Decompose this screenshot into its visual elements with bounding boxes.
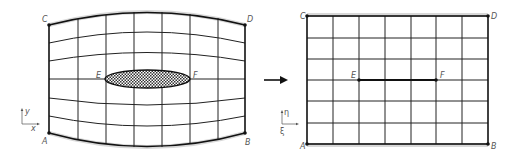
physical-domain: C D A B E F y x <box>21 12 253 147</box>
label-C: C <box>300 12 306 21</box>
axis-label-x: x <box>30 124 36 133</box>
corner-C-dot <box>305 14 309 18</box>
corner-B-dot <box>243 131 247 135</box>
xi-eta-axes-icon: η ξ <box>280 108 299 136</box>
label-E: E <box>351 71 357 80</box>
elliptic-obstacle <box>105 70 190 88</box>
label-A: A <box>299 142 305 151</box>
right-arrow-icon <box>264 76 288 84</box>
label-F: F <box>440 71 445 80</box>
label-D: D <box>247 15 253 24</box>
label-A: A <box>41 137 47 146</box>
label-B: B <box>491 142 497 151</box>
axis-label-xi: ξ <box>280 127 284 136</box>
label-C: C <box>42 15 48 24</box>
transformation-diagram: C D A B E F y x <box>0 0 513 155</box>
corner-A-dot <box>305 142 309 146</box>
label-B: B <box>245 138 251 147</box>
corner-A-dot <box>47 131 51 135</box>
computational-domain: C D A B E F η ξ <box>280 12 497 151</box>
corner-C-dot <box>47 23 51 27</box>
label-D: D <box>491 12 497 21</box>
axis-label-y: y <box>24 107 30 116</box>
point-E-dot <box>357 78 361 82</box>
axis-label-eta: η <box>284 108 289 117</box>
corner-B-dot <box>486 142 490 146</box>
xy-axes-icon: y x <box>21 107 40 133</box>
label-F: F <box>193 71 198 80</box>
corner-D-dot <box>486 14 490 18</box>
point-F-dot <box>434 78 438 82</box>
